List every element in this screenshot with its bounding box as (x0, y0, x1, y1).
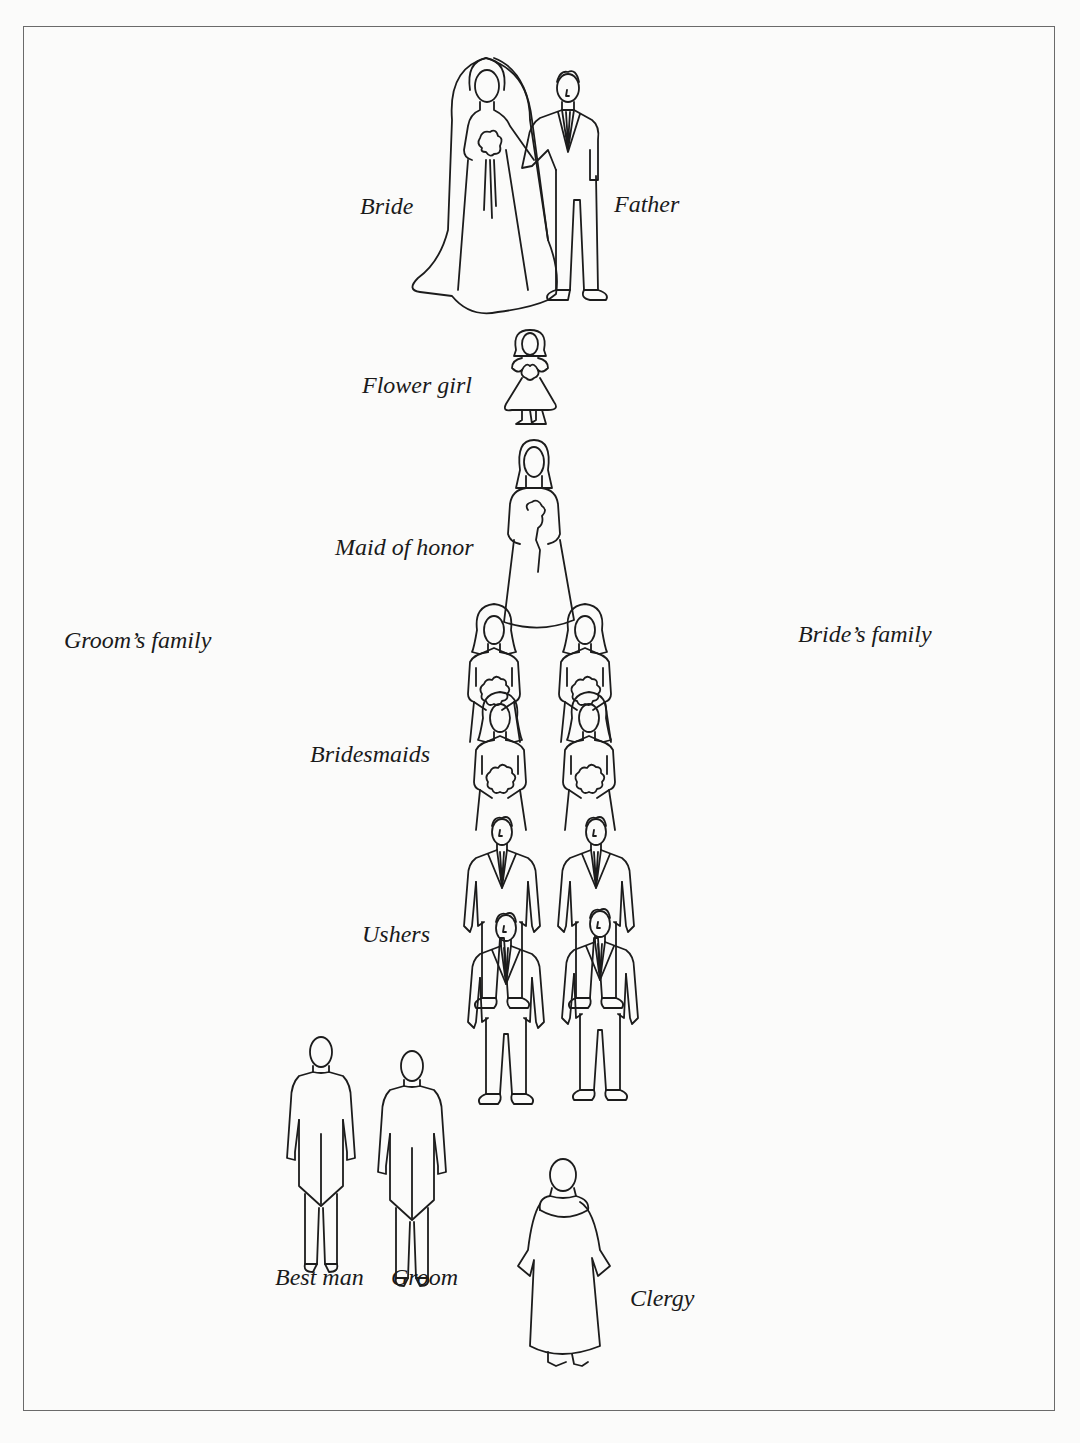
label-grooms-family: Groom’s family (64, 628, 211, 652)
flower-girl-figure (505, 330, 556, 424)
bride-figure (412, 58, 557, 313)
label-clergy: Clergy (630, 1286, 694, 1310)
label-maid-of-honor: Maid of honor (335, 535, 474, 559)
label-flower-girl: Flower girl (362, 373, 472, 397)
clergy-figure (518, 1159, 610, 1366)
maid-of-honor-figure (504, 440, 574, 628)
label-brides-family: Bride’s family (798, 622, 932, 646)
father-figure (522, 71, 607, 300)
label-groom: Groom (391, 1265, 458, 1289)
best-man-figure (287, 1037, 355, 1272)
usher-figure (562, 909, 638, 1100)
label-bride: Bride (360, 194, 413, 218)
bridesmaid-figure (563, 692, 615, 830)
bridesmaid-figure (474, 692, 526, 830)
bridesmaid-figure (468, 604, 520, 742)
groom-figure (378, 1051, 446, 1286)
label-ushers: Ushers (362, 922, 430, 946)
usher-figure (464, 817, 540, 1008)
bridesmaid-figure (559, 604, 611, 742)
label-best-man: Best man (275, 1265, 364, 1289)
processional-illustration (0, 0, 1080, 1443)
label-father: Father (614, 192, 679, 216)
label-bridesmaids: Bridesmaids (310, 742, 430, 766)
